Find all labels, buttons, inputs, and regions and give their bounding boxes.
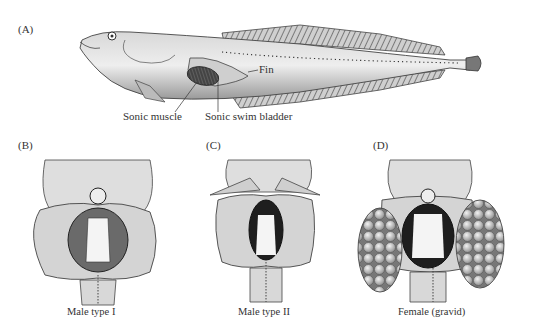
male-type-1-drawing <box>34 160 156 305</box>
caption-male-type-1: Male type I <box>67 306 115 317</box>
caption-male-type-2: Male type II <box>238 306 290 317</box>
male-type-2-drawing <box>210 160 320 302</box>
caption-female-gravid: Female (gravid) <box>398 306 465 317</box>
callout-sonic-muscle: Sonic muscle <box>123 110 182 122</box>
callout-fin: Fin <box>259 63 274 75</box>
female-gravid-drawing <box>358 160 504 302</box>
fish-lateral-drawing <box>80 25 481 112</box>
figure-illustration <box>0 0 552 326</box>
panel-label-a: (A) <box>18 23 33 35</box>
panel-label-d: (D) <box>373 139 388 151</box>
callout-sonic-swim-bladder: Sonic swim bladder <box>205 110 292 122</box>
panel-label-c: (C) <box>206 139 221 151</box>
panel-label-b: (B) <box>18 139 33 151</box>
